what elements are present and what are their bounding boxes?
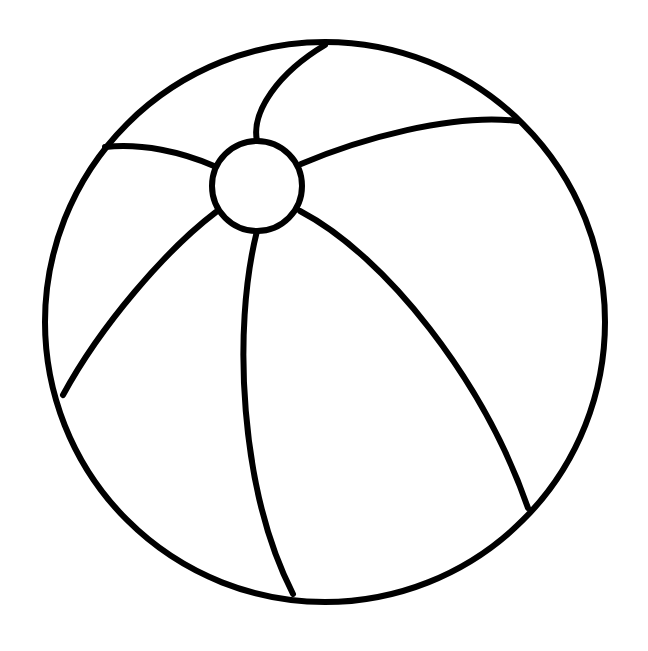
beach-ball-drawing xyxy=(0,0,648,651)
coloring-page-canvas xyxy=(0,0,648,651)
page-background xyxy=(0,0,648,651)
